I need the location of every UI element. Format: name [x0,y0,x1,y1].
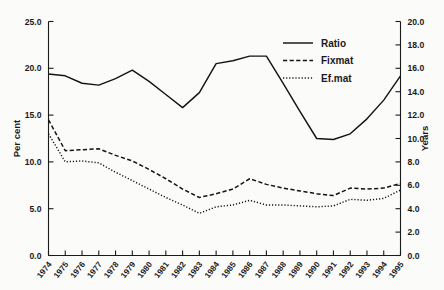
x-tick-label: 1988 [270,260,289,280]
right-tick-label: 2.0 [408,227,420,237]
left-tick-label: 0.0 [30,251,42,261]
x-tick-label: 1990 [303,260,322,280]
x-tick-label: 1984 [203,260,222,280]
left-axis: 0.05.010.015.020.025.0 [25,17,54,261]
legend-label: Ef.mat [321,73,352,84]
right-tick-label: 0.0 [408,251,420,261]
x-tick-label: 1985 [220,260,239,280]
x-tick-label: 1995 [387,260,406,280]
x-axis: 1974197519761977197819791980198119821983… [35,251,406,281]
legend-label: Fixmat [321,55,354,66]
y-axis-title-right: Years [419,126,430,151]
left-tick-label: 15.0 [25,110,42,120]
left-tick-label: 5.0 [30,204,42,214]
x-tick-label: 1991 [320,260,339,280]
right-tick-label: 6.0 [408,180,420,190]
x-tick-label: 1987 [253,260,272,280]
chart-legend: RatioFixmatEf.mat [283,38,354,84]
right-tick-label: 20.0 [408,17,425,27]
right-tick-label: 4.0 [408,204,420,214]
chart-figure: 0.05.010.015.020.025.0 0.02.04.06.08.010… [0,0,444,290]
y-axis-title-left: Per cent [11,119,22,157]
right-tick-label: 12.0 [408,110,425,120]
x-tick-label: 1994 [371,260,390,280]
x-tick-label: 1981 [153,260,172,280]
x-tick-label: 1976 [69,260,88,280]
x-tick-label: 1983 [186,260,205,280]
x-tick-label: 1986 [236,260,255,280]
right-tick-label: 14.0 [408,87,425,97]
left-tick-label: 20.0 [25,63,42,73]
x-tick-label: 1980 [136,260,155,280]
x-tick-label: 1979 [119,260,138,280]
series-line-ef-mat [49,134,401,214]
right-tick-label: 18.0 [408,40,425,50]
right-tick-label: 16.0 [408,63,425,73]
legend-label: Ratio [321,38,346,49]
x-tick-label: 1975 [52,260,71,280]
x-tick-label: 1978 [102,260,121,280]
x-tick-label: 1993 [354,260,373,280]
x-tick-label: 1992 [337,260,356,280]
x-tick-label: 1989 [287,260,306,280]
series-line-fixmat [49,120,401,198]
left-tick-label: 25.0 [25,17,42,27]
line-chart-canvas: 0.05.010.015.020.025.0 0.02.04.06.08.010… [0,0,444,290]
axis-titles: Per centYears [11,119,430,157]
x-tick-label: 1982 [169,260,188,280]
x-tick-label: 1974 [35,260,54,280]
left-tick-label: 10.0 [25,157,42,167]
x-tick-label: 1977 [86,260,105,280]
series-line-ratio [49,56,401,139]
right-tick-label: 8.0 [408,157,420,167]
